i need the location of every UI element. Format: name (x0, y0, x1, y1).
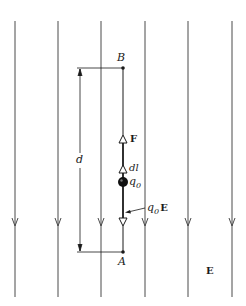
point-b-marker (121, 66, 125, 70)
displacement-arrow-icon (119, 165, 127, 173)
arrow-up-icon (78, 69, 82, 76)
electric-field-diagram: B A d F dl q0 q0E E (0, 0, 246, 306)
force-arrow-icon (119, 135, 127, 143)
force-label: F (130, 134, 137, 144)
charge-subscript: 0 (136, 181, 141, 190)
leader-line (128, 208, 145, 212)
charge-symbol: q (129, 175, 136, 188)
displacement-label: dl (129, 163, 139, 173)
test-charge (118, 177, 128, 187)
electric-force-charge: q (147, 201, 154, 214)
electric-force-arrow-icon (119, 218, 127, 226)
point-a-label: A (118, 256, 126, 267)
point-a-marker (121, 250, 125, 254)
test-charge-highlight (120, 179, 122, 181)
charge-label: q0 (129, 176, 141, 187)
leader-arrow-icon (125, 210, 131, 214)
arrow-down-icon (78, 244, 82, 251)
electric-force-subscript: 0 (154, 207, 159, 216)
electric-force-label: q0E (147, 202, 168, 213)
electric-force-field: E (160, 202, 168, 213)
point-b-label: B (117, 52, 125, 63)
field-label: E (206, 266, 214, 276)
distance-label: d (76, 154, 83, 165)
